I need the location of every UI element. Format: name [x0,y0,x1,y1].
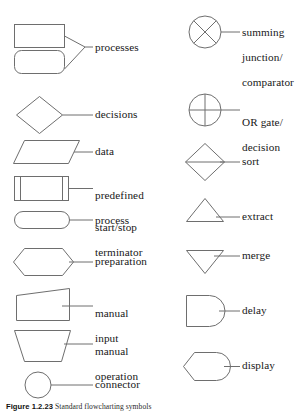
symbol-extract [187,199,241,222]
data-parallelogram-icon [14,141,80,164]
label-data: data [95,145,114,158]
display-shape-icon [184,353,231,381]
label-extract: extract [242,210,273,223]
label-merge: merge [242,249,270,262]
process-rectangle-icon [15,25,65,48]
symbol-data [14,141,94,164]
terminator-stadium-icon [15,212,70,229]
label-preparation: preparation [95,255,147,268]
symbol-manual-input [17,289,94,321]
label-processes: processes [95,41,139,54]
label-decisions: decisions [95,108,138,121]
label-display: display [242,359,275,372]
decision-diamond-icon [17,97,63,134]
symbol-start-stop-terminator [15,212,94,229]
symbol-display [184,353,241,381]
preparation-hexagon-icon [14,249,74,276]
merge-triangle-down-icon [187,251,224,274]
figure-caption-text: Standard flowcharting symbols [55,402,151,411]
symbol-processes [15,25,94,74]
symbol-delay [187,296,241,327]
symbol-summing-junction [189,16,240,48]
label-delay: delay [242,304,267,317]
extract-triangle-up-icon [187,199,224,222]
symbol-or-gate [189,94,240,126]
manual-operation-trapezoid-icon [15,331,71,362]
label-summing-junction-line-3: comparator [242,76,298,89]
figure-caption: Figure 1.2.23 Standard flowcharting symb… [6,402,296,411]
label-predefined-process-line-1: predefined [95,189,185,202]
symbol-merge [187,251,241,274]
label-sort: sort [242,155,259,168]
label-or-gate-line-1: OR gate/ [242,116,298,129]
process-rounded-rectangle-icon [15,51,65,74]
label-manual-input-line-1: manual [95,307,185,320]
processes-brace-leader [65,36,86,69]
label-connector: connector [95,378,140,391]
symbol-predefined-process [15,177,94,201]
symbol-preparation [14,249,94,276]
symbol-manual-operation [15,331,94,362]
connector-circle-icon [25,372,51,398]
label-manual-operation-line-1: manual [95,345,185,358]
figure-caption-number: Figure 1.2.23 [6,402,53,411]
label-summing-junction: summing junction/ comparator [242,13,298,101]
symbol-sort [186,144,241,181]
label-summing-junction-line-1: summing [242,26,298,39]
symbol-decisions [17,97,94,134]
label-summing-junction-line-2: junction/ [242,51,298,64]
label-or-gate-line-2: decision [242,141,298,154]
symbol-connector [25,372,93,398]
predefined-process-rectangle-icon [15,177,69,201]
manual-input-icon [17,289,70,321]
flowchart-symbol-legend: processes decisions data predefined proc… [0,0,298,413]
label-start-stop-terminator-line-1: start/stop [95,221,185,234]
